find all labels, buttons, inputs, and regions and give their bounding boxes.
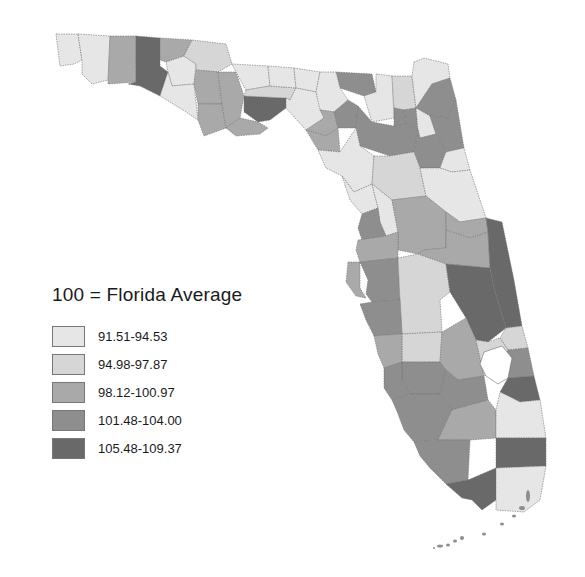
legend-item: 101.48-104.00 <box>52 406 242 434</box>
legend-item: 91.51-94.53 <box>52 322 242 350</box>
legend-title: 100 = Florida Average <box>52 284 242 306</box>
legend-label: 98.12-100.97 <box>98 385 175 400</box>
county-baker <box>392 76 416 110</box>
legend-swatch <box>52 410 85 431</box>
county-okaloosa <box>108 36 136 84</box>
legend-swatch <box>52 382 85 403</box>
county-hardee <box>402 332 442 362</box>
legend-label: 105.48-109.37 <box>98 441 182 456</box>
county-wakulla <box>244 96 286 122</box>
county-hillsborough <box>360 258 400 302</box>
legend-swatch <box>52 354 85 375</box>
legend-label: 94.98-97.87 <box>98 357 167 372</box>
map-legend: 100 = Florida Average 91.51-94.53 94.98-… <box>52 284 242 462</box>
legend-item: 98.12-100.97 <box>52 378 242 406</box>
legend-item: 105.48-109.37 <box>52 434 242 462</box>
legend-swatch <box>52 326 85 347</box>
legend-item: 94.98-97.87 <box>52 350 242 378</box>
county-gulf <box>198 104 226 136</box>
county-miami-dade <box>496 466 546 512</box>
legend-label: 91.51-94.53 <box>98 329 167 344</box>
county-jefferson <box>268 66 296 88</box>
county-desoto <box>402 362 446 394</box>
county-sarasota <box>374 334 402 368</box>
county-santa-rosa <box>78 34 110 84</box>
county-broward <box>496 438 546 468</box>
county-manatee <box>360 300 402 336</box>
county-calhoun <box>194 70 222 104</box>
county-polk <box>398 254 450 334</box>
legend-label: 101.48-104.00 <box>98 413 182 428</box>
county-collier <box>414 440 470 484</box>
legend-swatch <box>52 438 85 459</box>
county-escambia <box>56 34 82 66</box>
